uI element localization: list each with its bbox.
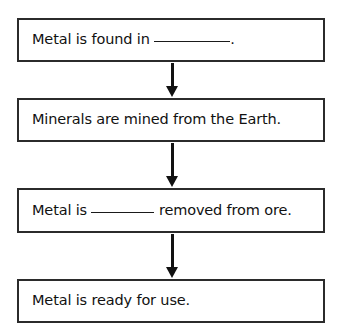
- arrow-head: [166, 176, 178, 187]
- step-3-blank: [91, 212, 154, 213]
- flowchart-step-1-text: Metal is found in .: [19, 32, 243, 48]
- arrow-shaft: [171, 234, 174, 267]
- arrow-shaft: [171, 63, 174, 86]
- step-1-text-before: Metal is found in: [32, 31, 154, 47]
- step-2-text: Minerals are mined from the Earth.: [32, 111, 281, 127]
- flowchart-step-4: Metal is ready for use.: [17, 279, 325, 323]
- down-arrow-icon-3: [166, 234, 179, 278]
- step-3-text-before: Metal is: [32, 202, 91, 218]
- arrow-shaft: [171, 143, 174, 176]
- step-4-text: Metal is ready for use.: [32, 292, 190, 308]
- flowchart-step-2: Minerals are mined from the Earth.: [17, 98, 325, 142]
- arrow-head: [166, 86, 178, 97]
- step-3-text-after: removed from ore.: [154, 202, 291, 218]
- flowchart-step-2-text: Minerals are mined from the Earth.: [19, 112, 289, 128]
- down-arrow-icon-2: [166, 143, 179, 187]
- flowchart-step-1: Metal is found in .: [17, 18, 325, 62]
- flowchart-step-4-text: Metal is ready for use.: [19, 293, 198, 309]
- down-arrow-icon-1: [166, 63, 179, 97]
- step-1-blank: [154, 41, 230, 42]
- flowchart-step-3-text: Metal is removed from ore.: [19, 203, 300, 219]
- flowchart-diagram: Metal is found in . Minerals are mined f…: [0, 0, 344, 333]
- step-1-text-after: .: [230, 31, 234, 47]
- arrow-head: [166, 267, 178, 278]
- flowchart-step-3: Metal is removed from ore.: [17, 188, 325, 233]
